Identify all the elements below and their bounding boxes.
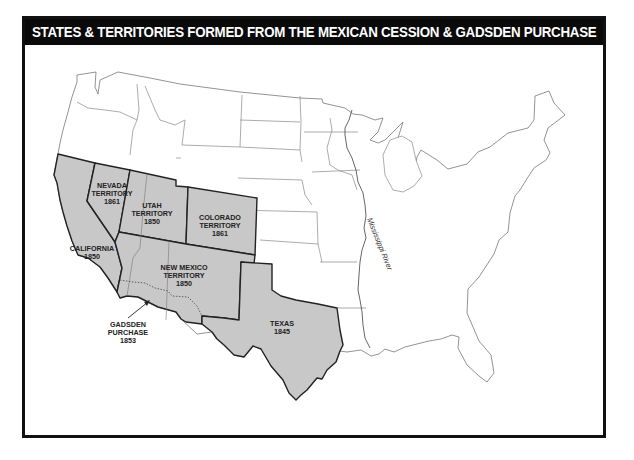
us-map: NEVADATERRITORY1861 UTAHTERRITORY1850 CO… [0, 0, 634, 460]
gadsden-arrow-icon [128, 300, 150, 318]
label-gadsden: GADSDENPURCHASE1853 [108, 320, 149, 345]
